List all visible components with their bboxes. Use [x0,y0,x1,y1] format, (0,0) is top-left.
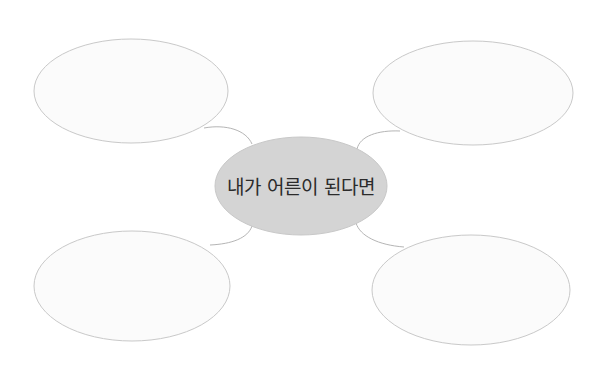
central-topic-label: 내가 어른이 된다면 [215,137,387,234]
branch-label-top-right [373,41,573,145]
mind-map-canvas: 내가 어른이 된다면 [0,0,605,368]
branch-label-bottom-left [34,231,230,341]
branch-label-top-left [34,39,228,143]
branch-label-bottom-right [372,235,570,345]
